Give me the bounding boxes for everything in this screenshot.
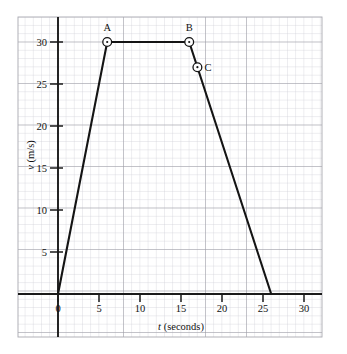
y-axis-label-units: (m/s)	[25, 140, 37, 165]
y-tick-label: 10	[37, 205, 48, 216]
x-tick-label: 30	[299, 303, 310, 314]
y-axis-label: v (m/s)	[25, 140, 37, 170]
x-tick-label: 0	[55, 303, 60, 314]
chart-canvas: 0 5 10 15 20 25 30 5 10 15 20 25 30 t (s…	[0, 0, 347, 354]
y-tick-label: 25	[37, 79, 48, 90]
point-a-marker	[103, 38, 112, 47]
graph-paper-grid	[18, 17, 323, 338]
point-b-label: B	[186, 22, 193, 33]
velocity-time-graph-figure: 0 5 10 15 20 25 30 5 10 15 20 25 30 t (s…	[0, 0, 347, 354]
point-c-marker	[193, 63, 202, 72]
x-tick-label: 20	[217, 303, 228, 314]
y-tick-label: 5	[42, 247, 47, 258]
y-tick-label: 15	[37, 163, 48, 174]
x-tick-label: 10	[135, 303, 146, 314]
x-axis-label-units: (seconds)	[161, 321, 204, 333]
x-axis-label: t (seconds)	[158, 321, 204, 333]
x-tick-label: 5	[96, 303, 101, 314]
point-b-marker	[185, 38, 194, 47]
y-tick-label: 30	[37, 37, 48, 48]
x-tick-label: 25	[258, 303, 269, 314]
y-tick-label: 20	[37, 121, 48, 132]
point-c-label: C	[205, 62, 212, 73]
point-a-label: A	[103, 22, 111, 33]
x-tick-label: 15	[176, 303, 187, 314]
